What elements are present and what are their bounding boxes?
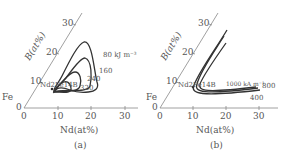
contour-label-160: 160 (99, 68, 112, 75)
panel-b-xtick-20: 20 (220, 112, 231, 121)
panel-a-fe: Fe (2, 93, 13, 102)
panel-a-xtick-10: 10 (52, 112, 63, 121)
panel-a-ytick-20: 20 (46, 48, 57, 57)
panel-b-x-axis-label: Nd(at%) (196, 126, 234, 135)
contour-label-240: 240 (87, 76, 100, 83)
contour-label-800: 800 (262, 83, 275, 90)
contour-label-80: 80 kJ m⁻³ (103, 52, 137, 59)
panel-a-x-axis-label: Nd(at%) (60, 126, 98, 135)
panel-b-compound-label: Nd2Fe14B (178, 82, 216, 89)
panel-b-xtick-0: 0 (157, 112, 163, 121)
panel-b-caption: (b) (210, 141, 223, 150)
panel-a-ytick-30: 30 (62, 19, 73, 28)
panel-b-xtick-10: 10 (187, 112, 198, 121)
panel-a-axes (24, 13, 138, 110)
panel-a-compound-label: Nd2Fe14B (40, 82, 78, 89)
panel-a-xtick-30: 30 (119, 112, 130, 121)
panel-a-caption: (a) (74, 141, 86, 150)
contour-label-320: 320 (80, 85, 93, 92)
panel-b-ytick-20: 20 (182, 48, 193, 57)
panel-a-xtick-0: 0 (21, 112, 27, 121)
panel-a-xtick-20: 20 (85, 112, 96, 121)
panel-b-fe: Fe (146, 93, 157, 102)
panel-b-ytick-10: 10 (166, 77, 177, 86)
contour-label-400: 400 (250, 95, 263, 102)
panel-b-xtick-30: 30 (253, 112, 264, 121)
contour-label-1000: 1000 kA m⁻¹ (226, 81, 264, 87)
panel-b-ytick-30: 30 (198, 19, 209, 28)
